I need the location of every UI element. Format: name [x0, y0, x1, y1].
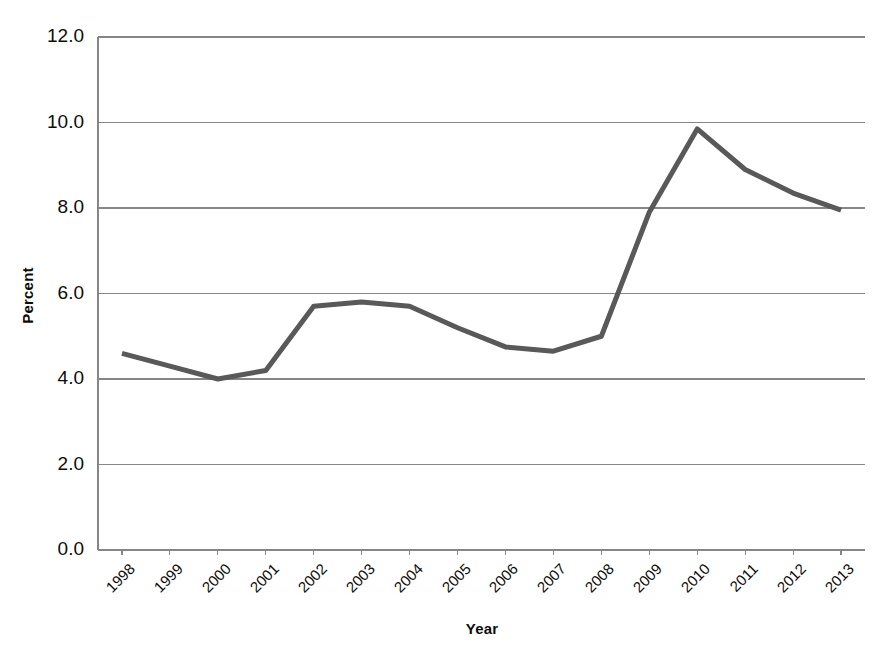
y-axis-tick-label: 6.0 — [22, 282, 84, 304]
y-axis-tick-label: 0.0 — [22, 538, 84, 560]
x-axis-title: Year — [98, 620, 866, 638]
y-axis-tick-label: 2.0 — [22, 453, 84, 475]
y-axis-tick-label: 4.0 — [22, 367, 84, 389]
y-axis-tick-label: 8.0 — [22, 196, 84, 218]
x-axis-title-text: Year — [466, 620, 499, 637]
gridlines — [98, 37, 865, 550]
y-axis-tick-label: 10.0 — [22, 111, 84, 133]
y-axis-tick-label: 12.0 — [22, 25, 84, 47]
x-axis-tick-marks — [122, 550, 841, 555]
line-chart-figure: Percent 12.010.08.06.04.02.00.0 19981999… — [0, 0, 882, 663]
series-line-percent — [122, 129, 841, 379]
data-series-line — [122, 129, 841, 379]
